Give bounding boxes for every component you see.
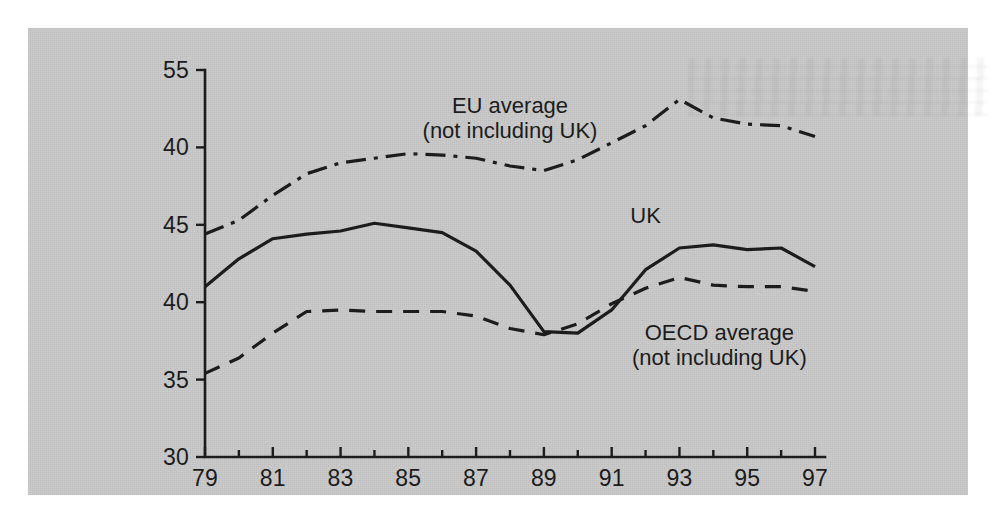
y-axis-tick-label: 55 — [127, 57, 189, 84]
y-axis-ticks — [196, 70, 205, 457]
x-axis-tick-label: 93 — [666, 465, 692, 492]
series-label-oecd-average: OECD average (not including UK) — [632, 320, 807, 370]
series-label-oecd-average-line1: OECD average — [632, 320, 807, 345]
series-label-uk: UK — [630, 203, 661, 228]
x-axis-tick-label: 89 — [531, 465, 557, 492]
x-axis-tick-label: 85 — [395, 465, 421, 492]
x-axis-tick-label: 87 — [463, 465, 489, 492]
x-axis-tick-label: 97 — [802, 465, 828, 492]
y-axis-tick-label: 35 — [127, 366, 189, 393]
series-label-eu-average: EU average (not including UK) — [423, 93, 598, 143]
series-label-oecd-average-line2: (not including UK) — [632, 345, 807, 370]
x-axis-ticks — [205, 447, 815, 457]
y-axis-tick-label: 40 — [127, 289, 189, 316]
figure-root: 554045403530 79818385878991939597 EU ave… — [0, 0, 996, 523]
x-axis-tick-label: 95 — [734, 465, 760, 492]
series-label-eu-average-line2: (not including UK) — [423, 118, 598, 143]
y-axis-tick-label: 45 — [127, 211, 189, 238]
x-axis-tick-label: 79 — [192, 465, 218, 492]
y-axis-tick-label: 30 — [127, 444, 189, 471]
series-label-eu-average-line1: EU average — [423, 93, 598, 118]
x-axis-tick-label: 81 — [260, 465, 286, 492]
y-axis-tick-label: 40 — [127, 134, 189, 161]
x-axis-tick-label: 83 — [328, 465, 354, 492]
series-label-uk-line1: UK — [630, 203, 661, 228]
x-axis-tick-label: 91 — [599, 465, 625, 492]
